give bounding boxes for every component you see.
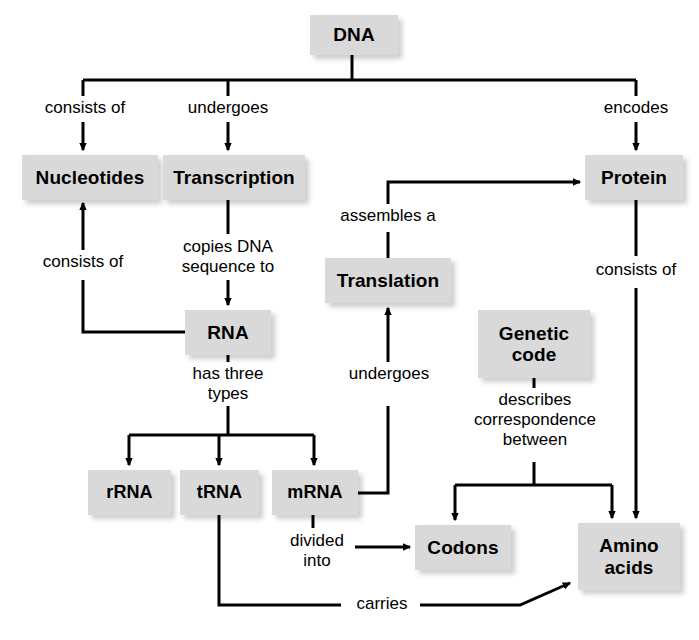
node-translation[interactable]: Translation	[325, 258, 451, 303]
link-label-describes-correspondence-between: describes correspondence between	[464, 390, 606, 450]
node-rna[interactable]: RNA	[185, 310, 271, 355]
node-rrna[interactable]: rRNA	[88, 470, 171, 515]
link-label-consists-of-protein-amino-acids: consists of	[581, 260, 691, 280]
link-label-undergoes-transcription: undergoes	[176, 98, 280, 118]
node-dna[interactable]: DNA	[310, 15, 398, 55]
link-label-copies-dna-sequence-to: copies DNA sequence to	[170, 237, 286, 277]
connector-rna-to-nucleotides	[83, 280, 185, 332]
node-amino-acids[interactable]: Amino acids	[578, 523, 680, 590]
node-codons[interactable]: Codons	[415, 525, 511, 570]
node-genetic-code[interactable]: Genetic code	[478, 310, 590, 378]
link-label-undergoes-translation: undergoes	[337, 364, 441, 384]
connector-trna-carries-right	[420, 583, 570, 605]
node-trna[interactable]: tRNA	[180, 470, 259, 515]
node-mrna[interactable]: mRNA	[272, 470, 358, 515]
link-label-divided-into: divided into	[281, 531, 353, 571]
link-label-consists-of-nucleotides-rna: consists of	[28, 252, 138, 272]
node-protein[interactable]: Protein	[585, 155, 683, 200]
link-label-carries: carries	[347, 594, 417, 614]
connector-translation-to-protein	[388, 182, 580, 204]
link-label-has-three-types: has three types	[179, 364, 277, 404]
node-transcription[interactable]: Transcription	[163, 155, 305, 200]
node-nucleotides[interactable]: Nucleotides	[22, 155, 158, 200]
link-label-consists-of-dna-nucleotides: consists of	[30, 98, 140, 118]
link-label-assembles-a: assembles a	[331, 206, 445, 226]
connector-mrna-to-translation-elbow	[358, 406, 388, 493]
link-label-encodes: encodes	[593, 98, 679, 118]
